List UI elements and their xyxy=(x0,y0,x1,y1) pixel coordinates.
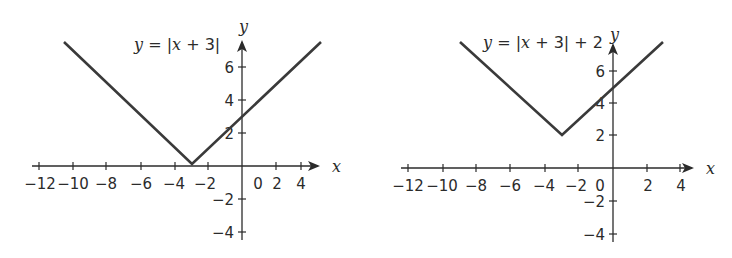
x-tick-label: −6 xyxy=(130,175,152,193)
x-tick-label: 4 xyxy=(676,177,686,195)
y-tick-label: −2 xyxy=(583,193,605,211)
right-equation-label: y = |x + 3| + 2 xyxy=(482,33,603,52)
right-chart: −12 −10 −8 −6 −4 −2 0 2 4 6 4 2 −2 −4 x … xyxy=(392,25,715,244)
x-tick-label: −12 xyxy=(392,177,424,195)
x-tick-label: −6 xyxy=(499,177,521,195)
y-tick-label: 2 xyxy=(595,127,605,145)
left-y-axis-label: y xyxy=(238,17,249,36)
x-tick-label: −8 xyxy=(95,175,117,193)
right-x-axis-label: x xyxy=(706,159,715,178)
right-abs-value-graph xyxy=(460,42,663,135)
x-tick-label: −12 xyxy=(24,175,56,193)
x-tick-label: 2 xyxy=(272,175,282,193)
x-tick-label: −8 xyxy=(465,177,487,195)
y-tick-label: 4 xyxy=(224,92,234,110)
y-tick-label: 6 xyxy=(595,63,605,81)
left-chart: −12 −10 −8 −6 −4 −2 0 2 4 6 4 2 −2 −4 x … xyxy=(24,17,341,242)
y-tick-label: −4 xyxy=(583,226,605,244)
right-y-tick-labels: 6 4 2 −2 −4 xyxy=(583,63,605,244)
y-tick-label: 6 xyxy=(224,59,234,77)
x-tick-label: −4 xyxy=(533,177,555,195)
left-y-tick-labels: 6 4 2 −2 −4 xyxy=(212,59,234,242)
figure: −12 −10 −8 −6 −4 −2 0 2 4 6 4 2 −2 −4 x … xyxy=(0,0,732,258)
x-tick-label: 4 xyxy=(296,175,306,193)
x-tick-label: 2 xyxy=(643,177,653,195)
x-tick-label: 0 xyxy=(253,175,263,193)
right-x-tick-labels: −12 −10 −8 −6 −4 −2 0 2 4 xyxy=(392,177,686,195)
y-tick-label: −2 xyxy=(212,191,234,209)
x-tick-label: −4 xyxy=(163,175,185,193)
left-x-tick-labels: −12 −10 −8 −6 −4 −2 0 2 4 xyxy=(24,175,306,193)
right-y-axis-label: y xyxy=(609,25,620,44)
x-tick-label: −10 xyxy=(57,175,89,193)
left-equation-label: y = |x + 3| xyxy=(133,35,220,54)
left-abs-value-graph xyxy=(64,42,321,164)
left-x-axis-label: x xyxy=(332,157,341,176)
y-tick-label: −4 xyxy=(212,224,234,242)
x-tick-label: −10 xyxy=(426,177,458,195)
